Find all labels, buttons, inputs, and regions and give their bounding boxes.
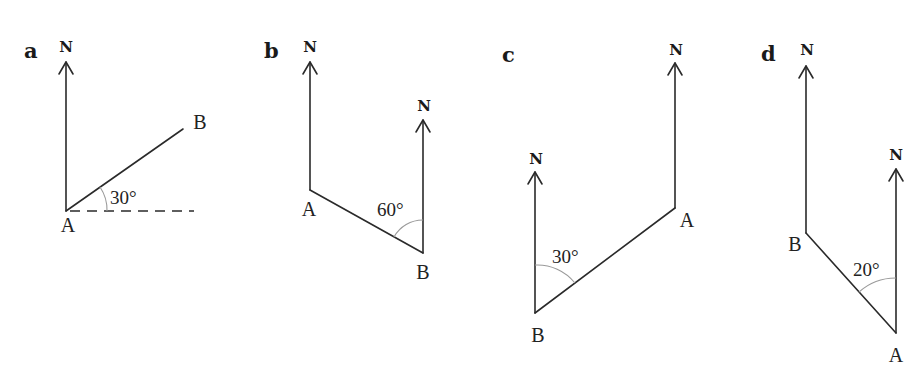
panel-letter-b: b	[264, 38, 279, 63]
north-arrow-at-a	[668, 63, 682, 208]
point-label-a: A	[61, 214, 76, 236]
north-arrow-at-a	[303, 62, 317, 190]
angle-arc	[100, 187, 107, 211]
panel-a: a N 30° A B	[24, 38, 207, 236]
point-label-a: A	[302, 198, 317, 220]
point-label-b: B	[531, 324, 544, 346]
point-label-a: A	[680, 209, 695, 231]
north-arrow-at-a	[889, 169, 903, 333]
angle-arc	[535, 265, 575, 283]
north-arrow-at-b	[416, 120, 430, 253]
panel-c: c N N 30° A B	[502, 41, 695, 346]
north-label: N	[59, 38, 73, 56]
panel-letter-a: a	[24, 38, 38, 63]
north-label-at-b: N	[800, 41, 814, 59]
panel-d: d N N 20° B A	[761, 41, 904, 366]
angle-arc	[394, 220, 423, 237]
panel-b: b N N 60° A B	[264, 38, 431, 283]
angle-label: 30°	[552, 246, 579, 267]
panel-letter-c: c	[502, 42, 515, 67]
angle-arc	[859, 278, 896, 292]
angle-label: 60°	[377, 199, 404, 220]
north-label-at-a: N	[669, 41, 683, 59]
segment-ba	[806, 233, 896, 333]
north-label-at-a: N	[889, 146, 903, 164]
angle-label: 20°	[853, 259, 880, 280]
north-arrow-at-b	[799, 66, 813, 233]
north-label-at-b: N	[529, 150, 543, 168]
point-label-b: B	[788, 233, 801, 255]
segment-ab	[310, 190, 423, 253]
north-label-at-a: N	[303, 38, 317, 56]
north-arrow-at-b	[528, 172, 542, 313]
angle-label: 30°	[110, 187, 137, 208]
point-label-a: A	[889, 344, 904, 366]
panel-letter-d: d	[761, 41, 776, 66]
north-label-at-b: N	[417, 97, 431, 115]
north-arrow	[59, 62, 73, 211]
point-label-b: B	[193, 111, 206, 133]
bearings-figure: a N 30° A B b N N 60° A B c N	[0, 0, 915, 367]
point-label-b: B	[416, 261, 429, 283]
